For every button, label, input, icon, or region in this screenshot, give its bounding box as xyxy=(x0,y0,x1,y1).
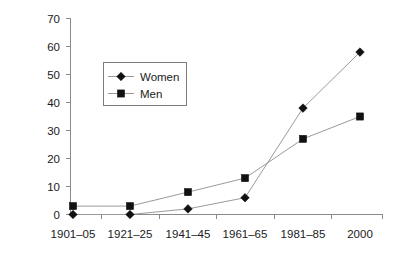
y-tick-label: 40 xyxy=(47,97,60,109)
y-axis-tick-labels: 70 60 50 40 30 20 10 0 xyxy=(47,13,60,221)
x-tick-label: 1981–85 xyxy=(281,228,326,240)
y-tick-label: 10 xyxy=(47,181,60,193)
data-point-square xyxy=(126,203,133,210)
x-tick-label: 1961–65 xyxy=(223,228,268,240)
series-markers-men xyxy=(69,113,363,210)
data-point-square xyxy=(69,203,76,210)
data-point-diamond xyxy=(184,205,193,214)
y-tick-label: 50 xyxy=(47,69,60,81)
chart-canvas: 70 60 50 40 30 20 10 0 1901–05 1921–25 1… xyxy=(0,0,401,258)
data-point-diamond xyxy=(69,210,78,219)
legend-label-men: Men xyxy=(140,88,162,100)
series-line-men xyxy=(73,117,360,207)
data-point-square xyxy=(241,175,248,182)
legend: Women Men xyxy=(104,63,187,106)
data-point-diamond xyxy=(241,193,250,202)
data-point-square xyxy=(299,135,306,142)
square-icon xyxy=(117,90,124,97)
x-axis-tick-labels: 1901–05 1921–25 1941–45 1961–65 1981–85 … xyxy=(51,228,373,240)
x-tick-label: 1941–45 xyxy=(166,228,211,240)
y-tick-label: 60 xyxy=(47,41,60,53)
x-tick-label: 1901–05 xyxy=(51,228,96,240)
y-tick-label: 0 xyxy=(54,209,60,221)
data-point-square xyxy=(356,113,363,120)
y-tick-label: 30 xyxy=(47,125,60,137)
legend-label-women: Women xyxy=(140,71,179,83)
series-men xyxy=(69,113,363,210)
data-point-square xyxy=(184,189,191,196)
x-axis-ticks xyxy=(102,215,383,220)
x-tick-label: 2000 xyxy=(347,228,373,240)
data-point-diamond xyxy=(126,210,135,219)
y-tick-label: 70 xyxy=(47,13,60,25)
x-tick-label: 1921–25 xyxy=(108,228,153,240)
line-chart: 70 60 50 40 30 20 10 0 1901–05 1921–25 1… xyxy=(0,0,401,258)
y-axis-ticks xyxy=(66,19,71,215)
y-tick-label: 20 xyxy=(47,153,60,165)
axes-group xyxy=(71,18,384,215)
